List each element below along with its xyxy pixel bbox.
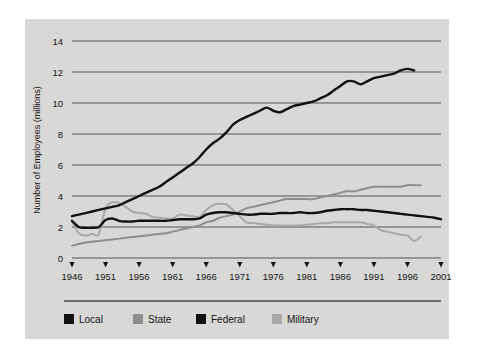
y-tick-label: 6	[58, 160, 63, 171]
x-tick-mark	[438, 262, 443, 268]
x-tick-mark	[304, 262, 309, 268]
y-tick-label: 2	[58, 222, 63, 233]
x-tick-label: 1946	[61, 271, 82, 282]
chart-figure: 02468101214 1946195119561961196619711976…	[0, 0, 482, 355]
x-tick-label: 1956	[129, 271, 150, 282]
legend: LocalStateFederalMilitary	[64, 301, 441, 325]
data-series	[72, 69, 441, 246]
x-tick-label: 1961	[162, 271, 183, 282]
y-axis-title: Number of Employees (millions)	[32, 86, 42, 214]
x-tick-label: 1986	[330, 271, 351, 282]
x-tick-label: 1966	[196, 271, 217, 282]
legend-label: Federal	[211, 314, 245, 325]
legend-label: State	[148, 314, 172, 325]
x-tick-mark	[103, 262, 108, 268]
legend-item-state[interactable]: State	[133, 314, 172, 325]
x-tick-mark	[69, 262, 74, 268]
y-tick-label: 14	[52, 36, 63, 47]
y-tick-label: 4	[58, 191, 63, 202]
x-tick-label: 2001	[430, 271, 451, 282]
x-tick-label: 1996	[397, 271, 418, 282]
legend-swatch	[272, 314, 282, 324]
x-tick-mark	[271, 262, 276, 268]
y-tick-label: 0	[58, 253, 63, 264]
x-tick-labels: 1946195119561961196619711976198119861991…	[61, 271, 451, 282]
legend-label: Local	[79, 314, 103, 325]
y-tick-label: 8	[58, 129, 63, 140]
y-axis-title: Number of Employees (millions)	[32, 86, 42, 214]
legend-swatch	[196, 314, 206, 324]
gridlines	[72, 41, 441, 258]
x-tick-mark	[338, 262, 343, 268]
legend-swatch	[133, 314, 143, 324]
series-line-local	[72, 69, 414, 216]
x-tick-label: 1991	[363, 271, 384, 282]
series-line-federal	[72, 209, 441, 228]
x-tick-mark	[237, 262, 242, 268]
x-tick-mark	[371, 262, 376, 268]
legend-item-federal[interactable]: Federal	[196, 314, 245, 325]
legend-item-military[interactable]: Military	[272, 314, 319, 325]
x-tick-label: 1976	[263, 271, 284, 282]
x-tick-label: 1951	[95, 271, 116, 282]
x-tick-mark	[170, 262, 175, 268]
legend-label: Military	[287, 314, 319, 325]
x-tick-label: 1981	[296, 271, 317, 282]
y-tick-labels: 02468101214	[52, 36, 63, 264]
line-chart: 02468101214 1946195119561961196619711976…	[0, 0, 482, 355]
x-tick-label: 1971	[229, 271, 250, 282]
x-tick-mark	[136, 262, 141, 268]
x-tick-mark	[204, 262, 209, 268]
legend-item-local[interactable]: Local	[64, 314, 103, 325]
y-tick-label: 12	[52, 67, 63, 78]
x-tick-marks	[69, 262, 443, 268]
y-tick-label: 10	[52, 98, 63, 109]
x-tick-mark	[405, 262, 410, 268]
legend-swatch	[64, 314, 74, 324]
